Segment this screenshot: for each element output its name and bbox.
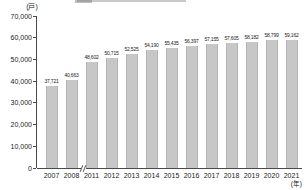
y-axis-tick <box>33 81 37 82</box>
bar <box>46 86 58 168</box>
bar-value-label: 37,721 <box>39 78 65 84</box>
y-axis-tick <box>33 168 37 169</box>
y-axis-tick <box>33 102 37 103</box>
bar-value-label: 59,162 <box>279 32 305 38</box>
bar-chart: (戸) 010,00020,00030,00040,00050,00060,00… <box>0 0 307 190</box>
bar <box>226 43 238 168</box>
y-axis-tick-label: 60,000 <box>0 33 32 42</box>
y-axis-tick-label: 0 <box>0 164 32 173</box>
y-axis-line <box>36 16 37 168</box>
bar-value-label: 40,663 <box>59 72 85 78</box>
y-axis-tick <box>33 146 37 147</box>
bar <box>106 58 118 168</box>
bar <box>266 40 278 168</box>
cropped-title-remnant <box>75 0 92 3</box>
y-axis-unit-label: (戸) <box>18 2 46 11</box>
y-axis-tick-label: 50,000 <box>0 55 32 64</box>
y-axis-tick-label: 70,000 <box>0 12 32 21</box>
bar <box>286 40 298 168</box>
y-axis-tick <box>33 124 37 125</box>
bar <box>206 44 218 168</box>
bar <box>246 42 258 168</box>
bar <box>166 48 178 168</box>
bar <box>126 54 138 168</box>
y-axis-tick-label: 30,000 <box>0 98 32 107</box>
x-axis-unit-label: (年) <box>280 179 302 188</box>
bar <box>146 50 158 168</box>
bar <box>86 62 98 168</box>
y-axis-tick-label: 10,000 <box>0 142 32 151</box>
y-axis-tick <box>33 16 37 17</box>
y-axis-tick-label: 40,000 <box>0 77 32 86</box>
y-axis-tick <box>33 59 37 60</box>
cropped-title-remnant <box>77 0 186 2</box>
bar <box>66 80 78 168</box>
bar <box>186 46 198 168</box>
y-axis-tick <box>33 37 37 38</box>
y-axis-tick-label: 20,000 <box>0 120 32 129</box>
